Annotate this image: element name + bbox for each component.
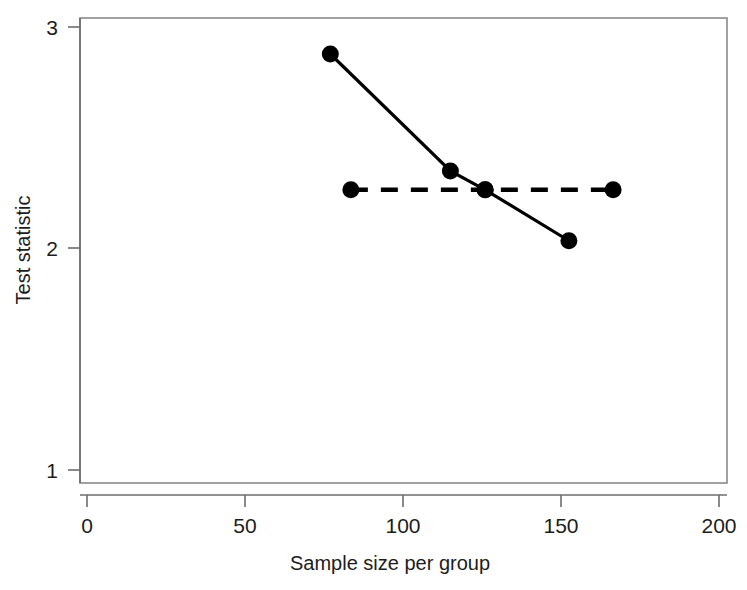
series-solid-curve: [322, 46, 578, 250]
y-tick-label-1: 1: [46, 459, 58, 482]
series-dashed-reference: [342, 181, 621, 198]
data-point: [477, 181, 494, 198]
data-series-layer: [322, 46, 622, 250]
x-tick-label-100: 100: [385, 514, 420, 537]
y-axis-title: Test statistic: [12, 196, 34, 305]
chart-plot-area: 3 2 1 0 50 100 150 200 Sample size per g…: [0, 0, 747, 590]
data-point: [322, 46, 339, 63]
x-tick-label-200: 200: [701, 514, 736, 537]
data-point: [342, 181, 359, 198]
series-line-solid-curve: [330, 54, 569, 241]
y-tick-label-2: 2: [46, 237, 58, 260]
y-axis-ticks: 3 2 1: [46, 16, 80, 482]
data-point: [442, 162, 459, 179]
plot-box-frame: [80, 18, 727, 483]
data-point: [560, 232, 577, 249]
x-tick-label-150: 150: [543, 514, 578, 537]
y-tick-label-3: 3: [46, 16, 58, 39]
x-tick-label-0: 0: [81, 514, 93, 537]
data-point: [605, 181, 622, 198]
x-tick-label-50: 50: [233, 514, 256, 537]
x-axis-ticks: 0 50 100 150 200: [81, 495, 736, 537]
x-axis-title: Sample size per group: [290, 552, 490, 574]
chart-figure: 3 2 1 0 50 100 150 200 Sample size per g…: [0, 0, 747, 590]
